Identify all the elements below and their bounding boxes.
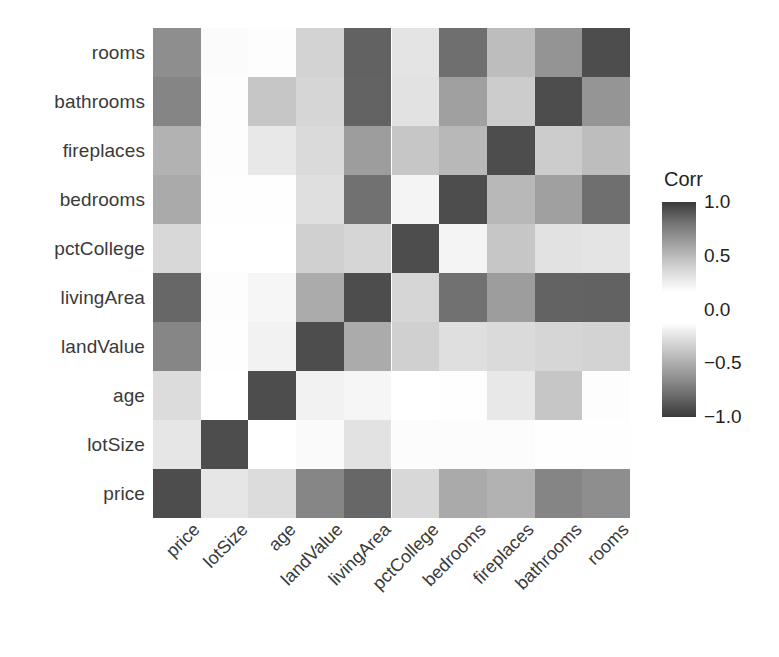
heatmap-cell (248, 322, 296, 371)
heatmap-cell (439, 28, 487, 77)
heatmap-cell (439, 273, 487, 322)
heatmap-cell (439, 371, 487, 420)
legend-tick: −0.5 (704, 352, 742, 374)
heatmap-cell (535, 273, 583, 322)
heatmap-cell (201, 273, 249, 322)
heatmap-cell (535, 175, 583, 224)
y-axis-labels: roomsbathroomsfireplacesbedroomspctColle… (0, 28, 145, 518)
heatmap-grid (153, 28, 630, 518)
legend-tick-labels: 1.00.50.0−0.5−1.0 (704, 202, 774, 417)
heatmap-cell (296, 224, 344, 273)
y-axis-tick-fireplaces: fireplaces (0, 126, 145, 175)
heatmap-cell (439, 77, 487, 126)
heatmap-cell (582, 77, 630, 126)
y-axis-tick-livingArea: livingArea (0, 273, 145, 322)
heatmap-cell (153, 273, 201, 322)
heatmap-cell (392, 126, 440, 175)
heatmap-cell (535, 371, 583, 420)
heatmap-cell (248, 28, 296, 77)
heatmap-cell (535, 77, 583, 126)
heatmap-cell (535, 28, 583, 77)
heatmap-cell (535, 224, 583, 273)
heatmap-cell (344, 77, 392, 126)
heatmap-cell (153, 126, 201, 175)
heatmap-cell (535, 126, 583, 175)
heatmap-cell (201, 371, 249, 420)
heatmap-cell (153, 322, 201, 371)
heatmap-cell (487, 28, 535, 77)
heatmap-cell (153, 371, 201, 420)
figure-canvas: roomsbathroomsfireplacesbedroomspctColle… (0, 0, 779, 657)
y-axis-tick-price: price (0, 469, 145, 518)
heatmap-cell (582, 224, 630, 273)
heatmap-cell (582, 273, 630, 322)
heatmap-cell (296, 322, 344, 371)
heatmap-cell (201, 322, 249, 371)
x-axis-tick-label: price (162, 518, 206, 562)
heatmap-cell (535, 322, 583, 371)
heatmap-cell (439, 322, 487, 371)
heatmap-cell (201, 77, 249, 126)
heatmap-cell (344, 175, 392, 224)
heatmap-cell (201, 175, 249, 224)
heatmap-cell (296, 371, 344, 420)
heatmap-cell (201, 420, 249, 469)
heatmap-cell (392, 175, 440, 224)
heatmap-cell (392, 224, 440, 273)
heatmap-cell (248, 273, 296, 322)
heatmap-cell (153, 469, 201, 518)
heatmap-cell (296, 420, 344, 469)
heatmap-cell (296, 126, 344, 175)
heatmap-cell (344, 371, 392, 420)
heatmap-cell (344, 28, 392, 77)
heatmap-cell (392, 77, 440, 126)
heatmap-cell (153, 175, 201, 224)
heatmap-cell (153, 420, 201, 469)
heatmap-cell (153, 77, 201, 126)
heatmap-cell (201, 224, 249, 273)
heatmap-cell (248, 371, 296, 420)
heatmap-cell (487, 175, 535, 224)
legend-segment-negative (662, 323, 696, 417)
heatmap-cell (487, 273, 535, 322)
heatmap-cell (582, 126, 630, 175)
heatmap-cell (344, 273, 392, 322)
heatmap-cell (248, 126, 296, 175)
legend-segment-positive (662, 202, 696, 292)
y-axis-tick-landValue: landValue (0, 322, 145, 371)
y-axis-tick-lotSize: lotSize (0, 420, 145, 469)
heatmap-cell (201, 28, 249, 77)
heatmap-cell (248, 224, 296, 273)
heatmap-cell (582, 420, 630, 469)
y-axis-tick-pctCollege: pctCollege (0, 224, 145, 273)
heatmap-cell (248, 77, 296, 126)
heatmap-cell (582, 28, 630, 77)
heatmap-cell (392, 273, 440, 322)
heatmap-cell (392, 371, 440, 420)
heatmap-cell (439, 175, 487, 224)
heatmap-cell (344, 322, 392, 371)
legend-title: Corr (664, 168, 703, 191)
legend-colorbar (662, 202, 696, 417)
heatmap-cell (392, 28, 440, 77)
x-axis-labels: pricelotSizeagelandValuelivingAreapctCol… (153, 518, 653, 657)
heatmap-cell (439, 420, 487, 469)
heatmap-cell (487, 322, 535, 371)
heatmap-cell (296, 77, 344, 126)
heatmap-cell (201, 126, 249, 175)
heatmap-cell (487, 371, 535, 420)
heatmap-cell (248, 175, 296, 224)
heatmap-cell (535, 420, 583, 469)
legend-tick: −1.0 (704, 406, 742, 428)
heatmap-cell (582, 371, 630, 420)
heatmap-cell (392, 420, 440, 469)
legend-tick: 1.0 (704, 191, 730, 213)
heatmap-cell (248, 420, 296, 469)
heatmap-cell (582, 175, 630, 224)
legend-tick: 0.0 (704, 299, 730, 321)
heatmap-cell (487, 126, 535, 175)
heatmap-cell (296, 273, 344, 322)
heatmap-cell (582, 322, 630, 371)
heatmap-cell (344, 126, 392, 175)
heatmap-cell (392, 322, 440, 371)
